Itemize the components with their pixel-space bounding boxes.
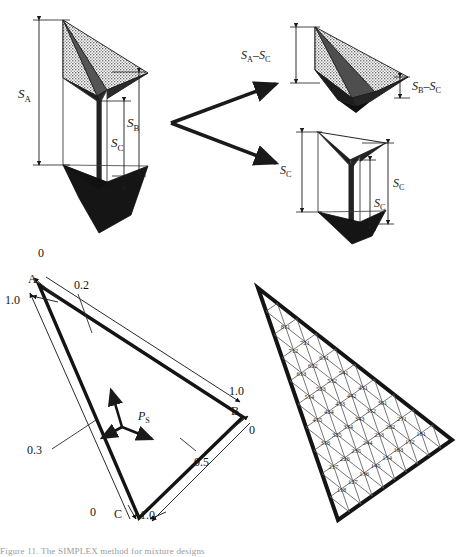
grid-code: 451: [358, 384, 368, 391]
grid-code: 154: [382, 453, 392, 460]
grid-code: 532: [327, 377, 337, 384]
grid-code: 442: [347, 392, 357, 399]
grid-code: 253: [374, 430, 384, 437]
tick-c-one: 1.0: [140, 508, 155, 523]
vertex-b-label: B: [231, 404, 239, 419]
grid-code: 325: [332, 431, 342, 438]
grid-code: 136: [359, 469, 369, 476]
vertex-a-label: A: [28, 272, 37, 287]
grid-code: 631: [319, 353, 329, 360]
grid-code: 163: [394, 445, 404, 452]
grid-code: 118: [337, 485, 347, 492]
label-sa-minus-sc: SA–SC: [241, 48, 270, 64]
grid-code: 262: [386, 422, 396, 429]
grid-code: 343: [355, 415, 365, 422]
tick-b-fraction: 0.5: [194, 455, 209, 470]
tick-a-one: 1.0: [5, 293, 20, 308]
ternary-diagram-graphic: [30, 277, 250, 521]
label-sc-inner: SC: [374, 196, 385, 212]
tick-b-one: 1.0: [229, 384, 244, 399]
grid-code: 244: [363, 438, 373, 445]
grid-code: 145: [371, 461, 381, 468]
grid-code: 622: [308, 361, 318, 368]
grid-code: 352: [366, 407, 376, 414]
grid-code: 433: [335, 400, 345, 407]
figure-root: SA SB SC SA–SC SB–SC SC SC SC 0 A 1.0 0.…: [0, 0, 473, 557]
grid-code: 127: [348, 477, 358, 484]
equal-prism-graphic: [296, 132, 394, 244]
label-sc-left: SC: [280, 163, 291, 179]
grid-code: 271: [397, 414, 407, 421]
grid-code: 172: [405, 437, 415, 444]
grid-code: 217: [329, 462, 339, 469]
tick-a-zero: 0: [38, 246, 44, 261]
grid-code: 514: [305, 393, 315, 400]
grid-code: 712: [289, 346, 299, 353]
grid-code: 721: [300, 338, 310, 345]
grid-code: 613: [297, 369, 307, 376]
difference-prism-graphic: [290, 27, 410, 113]
figure-caption: Figure 11. The SIMPLEX method for mixtur…: [0, 546, 473, 557]
vertex-c-label: C: [114, 507, 122, 522]
grid-code: 181: [416, 429, 426, 436]
label-sc: SC: [111, 135, 123, 153]
grid-code: 361: [378, 399, 388, 406]
grid-code: 226: [340, 454, 350, 461]
label-sb-minus-sc: SB–SC: [412, 79, 441, 95]
label-sb: SB: [127, 115, 139, 133]
grid-code: 415: [313, 416, 323, 423]
tick-b-zero: 0: [249, 423, 255, 438]
tick-a-fraction: 0.2: [74, 278, 89, 293]
label-sc-right: SC: [393, 176, 404, 192]
grid-code: 316: [321, 439, 331, 446]
point-ps-label: PS: [138, 409, 150, 425]
branch-arrows: [171, 84, 276, 163]
grid-code: 334: [343, 423, 353, 430]
figure-artwork: [0, 0, 473, 557]
tick-c-zero: 0: [90, 505, 96, 520]
grid-code: 811: [281, 323, 291, 330]
grid-code: 523: [316, 385, 326, 392]
label-sa: SA: [18, 86, 31, 104]
grid-code: 541: [339, 369, 349, 376]
grid-code: 424: [324, 408, 334, 415]
grid-code: 235: [351, 446, 361, 453]
tick-c-fraction: 0.3: [27, 443, 42, 458]
